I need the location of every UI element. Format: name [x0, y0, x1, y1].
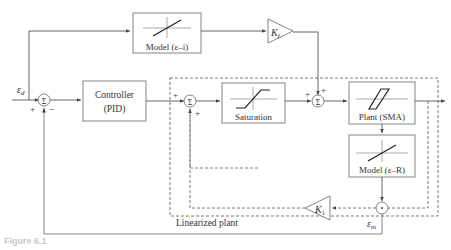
main-feedback-line [44, 108, 382, 234]
svg-text:+: + [173, 90, 178, 100]
svg-text:+: + [305, 89, 310, 99]
controller-pid-block: Controller (PID) [83, 81, 146, 121]
model-er-block: Model (ε–R) [349, 135, 415, 177]
svg-text:+: + [321, 85, 326, 95]
model-ei-label: Model (ε–i) [146, 42, 189, 52]
svg-text:Controller: Controller [95, 90, 135, 100]
svg-text:Saturation: Saturation [235, 112, 272, 122]
model-ei-block: Model (ε–i) [133, 13, 201, 53]
svg-text:Model (ε–R): Model (ε–R) [359, 165, 405, 175]
sum-junction-3: Σ [312, 95, 324, 107]
svg-text:−: − [49, 104, 55, 115]
input-signal-label: εd [17, 84, 25, 97]
svg-text:+: + [30, 104, 35, 114]
plant-sma-block: Plant (SMA) [349, 82, 415, 124]
saturation-block: Saturation [222, 83, 285, 123]
svg-text:Σ: Σ [188, 98, 193, 107]
svg-text:Plant (SMA): Plant (SMA) [359, 112, 405, 122]
svg-text:Σ: Σ [316, 98, 321, 107]
svg-text:Σ: Σ [42, 97, 47, 106]
block-diagram: Model (ε–i) Kf Σ εd + − Controller (PID)… [0, 0, 451, 250]
svg-text:(PID): (PID) [104, 104, 126, 115]
linearized-plant-label: Linearized plant [176, 218, 238, 228]
measured-signal-label: εm [367, 218, 376, 231]
sum-junction-4 [376, 202, 388, 214]
svg-text:+: + [195, 108, 200, 118]
sum-junction-2: Σ [184, 95, 196, 107]
figure-caption: Figure 6.1 [4, 236, 47, 246]
kf-gain: Kf [268, 19, 293, 43]
